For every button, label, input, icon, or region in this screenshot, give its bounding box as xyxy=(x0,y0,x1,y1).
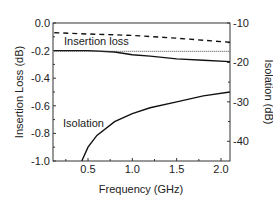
y-tick-label: -0.4 xyxy=(31,72,50,84)
y-tick-label: -0.8 xyxy=(31,127,50,139)
y2-tick-label: -30 xyxy=(233,96,249,108)
y-tick-label: -0.6 xyxy=(31,100,50,112)
annotation-isolation: Isolation xyxy=(63,117,104,129)
y2-tick-label: -40 xyxy=(233,135,249,147)
series-line xyxy=(54,51,230,62)
y-tick-label: 0.0 xyxy=(35,17,50,29)
x-tick-label: 1.5 xyxy=(169,163,184,175)
x-axis-label: Frequency (GHz) xyxy=(99,183,183,195)
y-tick-label: -0.2 xyxy=(31,45,50,57)
y2-tick-label: -10 xyxy=(233,17,249,29)
chart: 0.51.01.52.00.0-0.2-0.4-0.6-0.8-1.0-10-2… xyxy=(0,0,273,200)
x-tick-label: 1.0 xyxy=(125,163,140,175)
plot-lines xyxy=(54,33,230,161)
x-tick-label: 0.5 xyxy=(80,163,95,175)
series-line xyxy=(82,92,230,161)
annotation-insertion-loss: Insertion loss xyxy=(64,35,129,47)
y-axis-label: Insertion Loss (dB) xyxy=(13,46,25,138)
y-tick-label: -1.0 xyxy=(31,155,50,167)
y2-axis-label: Isolation (dB) xyxy=(263,60,273,125)
y2-tick-label: -20 xyxy=(233,56,249,68)
x-tick-label: 2.0 xyxy=(213,163,228,175)
